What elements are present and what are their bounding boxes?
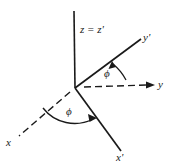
x-axis-label: x bbox=[6, 137, 11, 148]
phi-upper-angle-label: ϕ bbox=[104, 68, 110, 79]
x-axis-dashed-line bbox=[19, 92, 70, 136]
phi-lower-angle-label: ϕ bbox=[66, 106, 72, 117]
x-prime-axis-label: x' bbox=[116, 152, 123, 163]
y-prime-axis-line bbox=[75, 39, 141, 88]
x-prime-axis-line bbox=[75, 88, 121, 151]
y-axis-dashed-line bbox=[84, 85, 148, 87]
coordinate-rotation-figure: z = z' y' y x x' ϕ ϕ bbox=[0, 0, 171, 168]
y-axis-label: y bbox=[158, 79, 163, 90]
y-prime-axis-label: y' bbox=[143, 32, 150, 43]
z-axis-line bbox=[74, 11, 75, 88]
z-axis-label: z = z' bbox=[80, 24, 104, 35]
y-axis-arrowhead bbox=[146, 82, 155, 89]
